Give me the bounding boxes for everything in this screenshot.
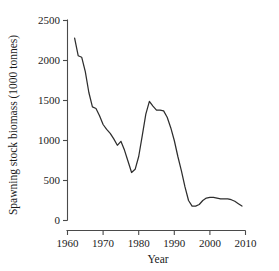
x-tick-label-2010: 2010 [235, 237, 258, 249]
x-axis-title: Year [147, 253, 168, 265]
x-tick-label-1960: 1960 [57, 237, 80, 249]
y-axis-ticks [63, 21, 68, 221]
y-tick-label-1000: 1000 [38, 134, 61, 146]
y-tick-label-2500: 2500 [38, 14, 61, 26]
x-tick-label-2000: 2000 [199, 237, 222, 249]
x-axis-ticks [68, 231, 246, 236]
y-tick-label-1500: 1500 [38, 94, 61, 106]
x-tick-label-1990: 1990 [163, 237, 186, 249]
data-series-line [75, 38, 242, 206]
line-chart-plot: 2500 2000 1500 1000 500 0 1960 1970 1980… [0, 0, 279, 271]
y-tick-label-0: 0 [55, 214, 61, 226]
chart-figure: 2500 2000 1500 1000 500 0 1960 1970 1980… [0, 0, 279, 271]
x-tick-label-1980: 1980 [128, 237, 151, 249]
x-tick-label-1970: 1970 [92, 237, 115, 249]
y-tick-label-2000: 2000 [38, 54, 61, 66]
y-tick-label-500: 500 [44, 174, 61, 186]
y-axis-title: Spawning stock biomass (1000 tonnes) [7, 35, 20, 215]
